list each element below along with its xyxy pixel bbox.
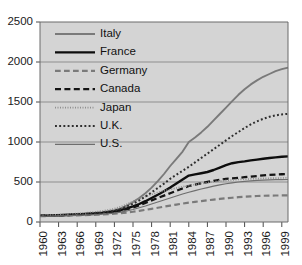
x-tick-label: 1966 — [74, 231, 86, 257]
x-tick-label: 1996 — [260, 231, 272, 257]
legend-label-japan: Japan — [100, 101, 131, 113]
legend-label-u-k: U.K. — [100, 119, 122, 131]
x-tick-label: 1978 — [149, 231, 161, 257]
x-tick-label: 1984 — [186, 230, 198, 256]
x-tick-label: 1960 — [37, 231, 49, 257]
legend-label-italy: Italy — [100, 27, 121, 39]
x-tick-label: 1981 — [167, 231, 179, 257]
legend-label-france: France — [100, 45, 136, 57]
legend-label-germany: Germany — [100, 64, 148, 76]
x-tick-label: 1999 — [279, 231, 291, 257]
y-tick-label: 2500 — [7, 15, 33, 27]
line-chart: 05001000150020002500 1960196319661969197… — [0, 0, 302, 265]
x-tick-label: 1969 — [93, 231, 105, 257]
y-tick-label: 0 — [27, 215, 33, 227]
legend-label-canada: Canada — [100, 82, 141, 94]
x-tick-label: 1987 — [204, 231, 216, 257]
x-tick-label: 1993 — [242, 231, 254, 257]
y-tick-label: 1000 — [7, 135, 33, 147]
y-tick-label: 500 — [14, 175, 33, 187]
y-tick-label: 1500 — [7, 95, 33, 107]
x-tick-label: 1972 — [111, 231, 123, 257]
x-tick-label: 1990 — [223, 231, 235, 257]
x-tick-label: 1963 — [56, 231, 68, 257]
legend-label-u-s: U.S. — [100, 137, 122, 149]
chart-canvas: 05001000150020002500 1960196319661969197… — [0, 0, 302, 265]
x-tick-label: 1975 — [130, 231, 142, 257]
y-tick-label: 2000 — [7, 55, 33, 67]
